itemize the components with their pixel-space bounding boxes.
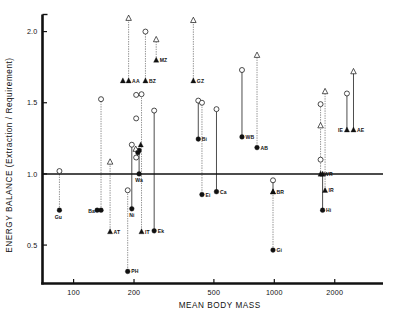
point-label-wb: WB — [245, 134, 254, 140]
marker-bi-low — [196, 137, 201, 142]
point-label-wa: Wa — [135, 177, 143, 183]
point-label-ie: IE — [338, 127, 344, 133]
marker-wb-low — [240, 135, 245, 140]
x-tick-label-100: 100 — [67, 288, 80, 297]
point-label-ni: Ni — [129, 212, 135, 218]
y-tick-label-0.5: 0.5 — [27, 241, 38, 250]
point-label-it: IT — [145, 229, 151, 235]
point-label-mz: MZ — [160, 57, 168, 63]
point-label-at: AT — [114, 229, 121, 235]
point-label-ek: Ek — [158, 228, 164, 234]
marker-ek-low — [152, 228, 157, 233]
y-tick-label-2.0: 2.0 — [27, 27, 38, 36]
y-tick-label-1.0: 1.0 — [27, 170, 38, 179]
wa-cluster-open-cir-a — [134, 155, 139, 160]
chart-root: GuBaATPHNiAAWaITBZEkMZGZBiEiCaWBABBRGiWR… — [0, 0, 395, 321]
point-label-ba: Ba — [88, 208, 95, 214]
point-label-wr: WR — [324, 171, 333, 177]
x-tick-label-1000: 1000 — [266, 288, 283, 297]
x-axis-title: MEAN BODY MASS — [179, 301, 261, 310]
plot-background — [0, 0, 395, 321]
it-upper-open-circle — [134, 116, 139, 121]
marker-wb-high — [239, 68, 244, 73]
point-label-gu: Gu — [55, 214, 62, 220]
marker-gu-high — [57, 169, 62, 174]
x-tick-label-500: 500 — [208, 288, 221, 297]
point-label-aa: AA — [132, 78, 140, 84]
marker-wa-low — [137, 172, 142, 177]
point-label-gz: GZ — [197, 78, 204, 84]
point-label-ei: Ei — [205, 192, 210, 198]
wa-cluster-fill-cir-a — [136, 150, 141, 155]
marker-ph-low — [125, 269, 130, 274]
point-label-bz: BZ — [149, 78, 156, 84]
marker-ek-high — [152, 108, 157, 113]
point-label-hi: Hi — [326, 207, 332, 213]
marker-ca-high — [214, 107, 219, 112]
marker-bz-high — [143, 29, 148, 34]
y-axis-title: ENERGY BALANCE (Extraction / Requirement… — [5, 57, 14, 252]
marker-ni-low — [129, 206, 134, 211]
point-label-bi: Bi — [202, 136, 208, 142]
marker-gu-low — [57, 208, 62, 213]
point-label-gi: Gi — [277, 247, 283, 253]
marker-br-high — [271, 178, 276, 183]
marker-ei-low — [200, 192, 205, 197]
marker-ei-high — [199, 100, 204, 105]
point-label-ph: PH — [131, 268, 138, 274]
marker-ni-high — [129, 142, 134, 147]
marker-gi-low — [271, 248, 276, 253]
it-upper-open-circle2 — [134, 92, 139, 97]
point-label-ca: Ca — [220, 189, 227, 195]
marker-it-high — [139, 92, 144, 97]
point-label-ae: AE — [357, 127, 365, 133]
ba-second-filled — [95, 208, 100, 213]
x-tick-label-200: 200 — [128, 288, 141, 297]
marker-hi-low — [320, 208, 325, 213]
marker-ph-high — [125, 188, 130, 193]
point-label-ir: IR — [329, 187, 335, 193]
y-tick-label-1.5: 1.5 — [27, 98, 38, 107]
marker-ie-high — [344, 91, 349, 96]
energy-balance-scatter-plot: GuBaATPHNiAAWaITBZEkMZGZBiEiCaWBABBRGiWR… — [0, 0, 395, 321]
x-tick-label-2000: 2000 — [326, 288, 343, 297]
marker-ca-low — [214, 189, 219, 194]
wr-low-open-circle — [318, 157, 323, 162]
marker-ba-high — [99, 97, 104, 102]
point-label-ab: AB — [261, 145, 269, 151]
point-label-br: BR — [277, 189, 285, 195]
marker-wr-high — [318, 102, 323, 107]
marker-ab-low — [255, 145, 260, 150]
